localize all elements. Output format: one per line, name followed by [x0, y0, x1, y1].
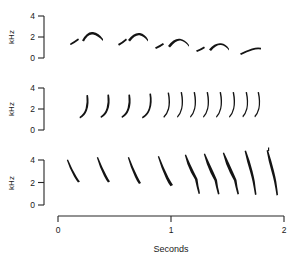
note-mid-9 [216, 92, 222, 118]
panel-top-axis-title-khz: kHz [7, 30, 16, 44]
note-mid-8 [203, 92, 209, 118]
panel-bottom-axis-title-khz: kHz [7, 176, 16, 190]
note-top-6 [168, 39, 189, 48]
note-top-9 [240, 48, 261, 55]
panel-top-ylabel-2: 2 [30, 32, 35, 42]
note-mid-12 [254, 92, 260, 117]
x-axis: 0 1 2 Seconds [56, 216, 287, 254]
panel-middle-notes [80, 92, 261, 119]
note-mid-3 [122, 95, 131, 119]
panel-middle-ylabel-4: 4 [30, 83, 35, 93]
panel-bottom-ylabel-2: 2 [30, 178, 35, 188]
note-mid-5 [163, 93, 170, 119]
panel-middle: 4 2 0 kHz [7, 83, 260, 135]
note-mid-7 [190, 92, 196, 118]
note-top-4 [128, 33, 148, 42]
panel-top-ylabel-4: 4 [30, 11, 35, 21]
panel-middle-axis-title-khz: kHz [7, 102, 16, 116]
note-top-7 [196, 47, 205, 53]
note-mid-10 [229, 92, 235, 118]
panel-middle-ylabel-2: 2 [30, 104, 35, 114]
panel-bottom-notes [67, 148, 278, 196]
note-bot-9 [267, 150, 278, 196]
panel-bottom-ylabel-0: 0 [30, 200, 35, 210]
panel-bottom: 4 2 0 kHz [7, 148, 278, 211]
spectrogram-figure: 4 2 0 kHz 4 2 0 [0, 0, 296, 262]
note-top-1 [71, 40, 78, 45]
xaxis-label-1: 1 [169, 225, 174, 235]
note-bot-9-tick [268, 148, 269, 152]
note-mid-4 [142, 94, 152, 119]
note-top-8 [209, 43, 229, 51]
note-mid-2 [101, 95, 110, 119]
note-mid-6 [177, 92, 183, 118]
panel-top: 4 2 0 kHz [7, 11, 261, 63]
note-bot-8 [245, 151, 257, 196]
spectrogram-svg: 4 2 0 kHz 4 2 0 [0, 0, 296, 262]
xaxis-title-seconds: Seconds [153, 244, 189, 254]
note-top-2 [82, 32, 103, 42]
panel-top-notes [71, 32, 261, 55]
xaxis-label-2: 2 [282, 225, 287, 235]
note-top-5 [155, 43, 164, 49]
note-bot-1 [67, 160, 80, 183]
note-top-3 [118, 39, 127, 46]
note-bot-2 [97, 157, 110, 183]
xaxis-label-0: 0 [56, 225, 61, 235]
panel-middle-ylabel-0: 0 [30, 125, 35, 135]
note-bot-5 [185, 155, 200, 195]
panel-bottom-ylabel-4: 4 [30, 155, 35, 165]
note-bot-3 [128, 157, 141, 184]
note-bot-7 [223, 153, 239, 195]
note-mid-1 [80, 95, 89, 119]
note-mid-11 [242, 92, 248, 117]
note-bot-6 [204, 154, 220, 195]
panel-top-ylabel-0: 0 [30, 53, 35, 63]
note-bot-4 [158, 156, 173, 186]
